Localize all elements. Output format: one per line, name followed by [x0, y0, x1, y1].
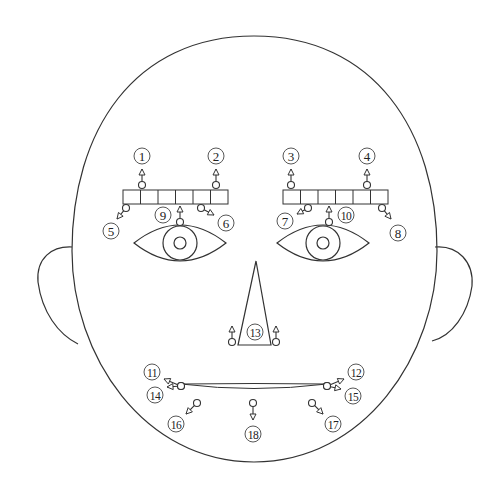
marker-dot: [194, 400, 201, 407]
marker-dot: [305, 205, 312, 212]
arrow-head-icon: [326, 206, 332, 212]
arrow-head-icon: [364, 169, 370, 175]
label-number: 1: [139, 149, 146, 164]
label-number: 5: [108, 224, 115, 239]
arrow-head-icon: [213, 169, 219, 175]
arrow-head-icon: [337, 379, 344, 385]
label-number: 11: [147, 367, 158, 379]
iris: [163, 226, 197, 260]
landmark-5: [117, 205, 130, 220]
pupil: [317, 237, 329, 249]
mouth: [181, 384, 327, 389]
label-number: 8: [395, 226, 402, 241]
landmark-8: [379, 205, 392, 220]
arrow-head-icon: [335, 385, 341, 391]
label-number: 7: [282, 214, 289, 229]
iris: [306, 226, 340, 260]
label-7: 7: [277, 213, 293, 229]
landmark-18: [250, 400, 257, 421]
arrow-head-icon: [139, 169, 145, 175]
arrow-head-icon: [164, 379, 171, 385]
landmark-2: [213, 169, 220, 189]
arrow-head-icon: [167, 384, 173, 390]
marker-dot: [198, 205, 205, 212]
face-diagram-canvas: 123456789101114121516171813: [0, 0, 502, 492]
marker-dot: [309, 400, 316, 407]
label-12: 12: [348, 364, 364, 380]
label-15: 15: [345, 388, 361, 404]
marker-dot: [364, 182, 371, 189]
label-number: 18: [248, 429, 259, 441]
label-number: 16: [171, 419, 182, 431]
label-number: 12: [351, 367, 362, 379]
landmark-points: [117, 169, 391, 420]
label-number: 2: [213, 149, 220, 164]
label-3: 3: [283, 148, 299, 164]
pupil: [174, 237, 186, 249]
arrow-head-icon: [288, 169, 294, 175]
arrow-head-icon: [177, 206, 183, 212]
landmark-1: [139, 169, 146, 189]
label-14: 14: [147, 387, 163, 403]
arrow-head-icon: [250, 414, 256, 420]
landmark-17: [309, 400, 324, 415]
label-2: 2: [208, 148, 224, 164]
label-10: 10: [338, 207, 354, 223]
landmark-labels: 123456789101114121516171813: [103, 148, 406, 442]
eyebrows: [123, 190, 388, 204]
eyebrow-left: [123, 190, 228, 204]
lower-lip: [181, 384, 327, 389]
label-number: 3: [288, 149, 295, 164]
label-5: 5: [103, 223, 119, 239]
marker-dot: [178, 383, 185, 390]
label-4: 4: [359, 148, 375, 164]
arrow-head-icon: [229, 326, 235, 332]
upper-lip: [181, 384, 327, 385]
label-17: 17: [325, 416, 341, 432]
arrow-head-icon: [273, 326, 279, 332]
landmark-6: [198, 205, 215, 216]
landmark-10: [326, 206, 333, 226]
label-number: 17: [328, 419, 339, 431]
face-diagram: 123456789101114121516171813: [0, 0, 502, 492]
eye-outline: [277, 225, 369, 261]
label-6: 6: [218, 215, 234, 231]
label-number: 13: [250, 327, 261, 339]
label-9: 9: [155, 207, 171, 223]
label-16: 16: [168, 416, 184, 432]
label-13: 13: [247, 324, 263, 340]
marker-dot: [324, 383, 331, 390]
label-18: 18: [245, 426, 261, 442]
label-number: 4: [364, 149, 371, 164]
label-number: 10: [341, 210, 352, 222]
eyes: [134, 225, 369, 261]
landmark-7: [297, 205, 312, 215]
eye-left: [134, 225, 226, 261]
marker-dot: [379, 205, 386, 212]
landmark-16: [186, 400, 201, 415]
arrow-head-icon: [297, 208, 304, 214]
label-1: 1: [134, 148, 150, 164]
marker-dot: [250, 400, 257, 407]
landmark-13b: [273, 326, 280, 346]
label-number: 14: [150, 390, 161, 402]
label-number: 6: [223, 216, 230, 231]
marker-dot: [229, 339, 236, 346]
landmark-3: [288, 169, 295, 189]
marker-dot: [288, 182, 295, 189]
marker-dot: [273, 339, 280, 346]
marker-dot: [177, 219, 184, 226]
marker-dot: [326, 219, 333, 226]
label-11: 11: [144, 364, 160, 380]
head-outline: [72, 36, 437, 462]
marker-dot: [123, 205, 130, 212]
marker-dot: [213, 182, 220, 189]
label-number: 9: [160, 208, 167, 223]
eye-outline: [134, 225, 226, 261]
label-number: 15: [348, 391, 359, 403]
eyebrow-right: [283, 190, 388, 204]
landmark-13a: [229, 326, 236, 346]
arrow-head-icon: [207, 210, 214, 215]
ear-right: [432, 247, 472, 341]
landmark-4: [364, 169, 371, 189]
